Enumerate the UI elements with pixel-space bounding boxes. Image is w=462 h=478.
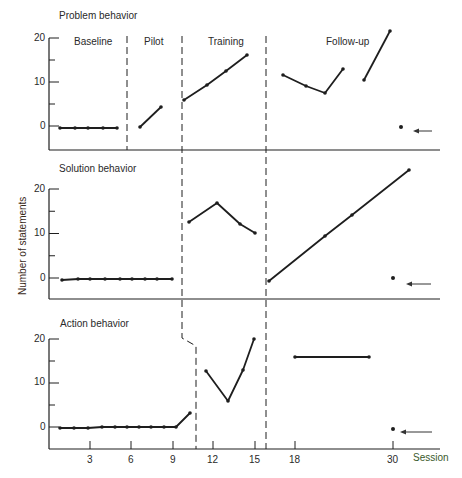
data-point: [143, 277, 147, 281]
data-point: [60, 278, 64, 282]
xtick-18: 18: [289, 454, 300, 465]
multi-panel-line-chart: [0, 0, 462, 478]
ytick-p3-10: 10: [34, 376, 45, 387]
data-point: [159, 105, 163, 109]
data-point: [187, 220, 191, 224]
data-point: [241, 368, 245, 372]
data-point: [245, 53, 249, 57]
data-point: [341, 67, 345, 71]
followup-dot: [399, 125, 403, 129]
xtick-3: 3: [87, 454, 93, 465]
data-point: [350, 213, 354, 217]
data-point: [73, 126, 77, 130]
data-point: [204, 369, 208, 373]
data-point: [323, 234, 327, 238]
ytick-p3-0: 0: [40, 421, 46, 432]
xtick-6: 6: [128, 454, 134, 465]
data-point: [138, 125, 142, 129]
data-point: [252, 337, 256, 341]
data-line: [140, 107, 161, 127]
data-point: [238, 222, 242, 226]
data-line: [269, 170, 409, 281]
data-point: [88, 277, 92, 281]
ytick-p1-0: 0: [40, 120, 46, 131]
arrow-icon: [413, 129, 419, 134]
data-point: [362, 78, 366, 82]
data-line: [189, 203, 255, 233]
data-point: [253, 231, 257, 235]
xtick-15: 15: [249, 454, 260, 465]
xtick-9: 9: [170, 454, 176, 465]
data-line: [60, 413, 190, 428]
arrow-icon: [406, 282, 412, 287]
data-point: [130, 277, 134, 281]
data-line: [206, 339, 254, 401]
ytick-p1-10: 10: [34, 76, 45, 87]
data-point: [162, 425, 166, 429]
data-point: [103, 277, 107, 281]
data-point: [58, 426, 62, 430]
data-point: [188, 411, 192, 415]
panel-title-solution: Solution behavior: [59, 163, 136, 174]
phase-label-followup: Follow-up: [326, 36, 369, 47]
followup-dot: [391, 276, 395, 280]
x-axis-label: Session: [413, 452, 449, 463]
data-point: [205, 83, 209, 87]
panel-title-problem: Problem behavior: [59, 10, 137, 21]
data-point: [293, 355, 297, 359]
ytick-p1-20: 20: [34, 32, 45, 43]
followup-dot: [391, 427, 395, 431]
data-line: [184, 55, 247, 100]
data-point: [149, 425, 153, 429]
data-point: [72, 426, 76, 430]
panel-title-action: Action behavior: [60, 318, 129, 329]
y-axis-label: Number of statements: [17, 197, 28, 295]
arrow-icon: [400, 430, 406, 435]
data-point: [101, 126, 105, 130]
data-point: [182, 98, 186, 102]
data-point: [170, 277, 174, 281]
data-point: [58, 126, 62, 130]
ytick-p2-20: 20: [34, 183, 45, 194]
ytick-p3-20: 20: [34, 333, 45, 344]
xtick-30: 30: [387, 454, 398, 465]
data-point: [86, 126, 90, 130]
phase-label-pilot: Pilot: [144, 36, 163, 47]
data-point: [367, 355, 371, 359]
data-point: [137, 425, 141, 429]
data-point: [267, 279, 271, 283]
phase-label-training: Training: [208, 36, 244, 47]
data-point: [113, 425, 117, 429]
phase-label-baseline: Baseline: [74, 36, 112, 47]
data-point: [155, 277, 159, 281]
data-point: [76, 277, 80, 281]
data-point: [118, 277, 122, 281]
data-point: [224, 69, 228, 73]
data-point: [281, 73, 285, 77]
xtick-12: 12: [207, 454, 218, 465]
ytick-p2-0: 0: [40, 272, 46, 283]
data-point: [323, 91, 327, 95]
data-point: [174, 425, 178, 429]
phase-divider-training: [182, 36, 196, 449]
ytick-p2-10: 10: [34, 227, 45, 238]
data-point: [304, 84, 308, 88]
data-point: [226, 399, 230, 403]
data-point: [407, 168, 411, 172]
data-point: [125, 425, 129, 429]
data-point: [215, 201, 219, 205]
data-point: [115, 126, 119, 130]
data-point: [86, 426, 90, 430]
data-point: [388, 29, 392, 33]
data-line: [283, 69, 343, 93]
data-point: [100, 425, 104, 429]
